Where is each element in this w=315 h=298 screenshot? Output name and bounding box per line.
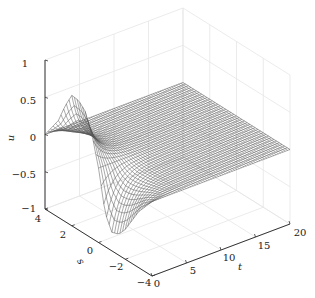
t-tick-label: 15 <box>258 240 271 251</box>
t-tick-label: 10 <box>223 252 236 263</box>
t-tick-label: 5 <box>190 265 196 276</box>
s-tick-label: 4 <box>35 213 41 224</box>
s-tick-label: 2 <box>60 229 66 240</box>
z-axis-label: u <box>5 135 16 141</box>
z-tick-label: −0.5 <box>12 169 36 180</box>
t-tick-label: 20 <box>294 227 307 238</box>
t-axis-label: t <box>238 261 243 272</box>
s-tick-label: −4 <box>137 277 152 288</box>
z-tick-label: −1 <box>21 203 36 214</box>
t-tick-label: 0 <box>154 278 160 289</box>
s-tick-label: 0 <box>87 245 93 256</box>
s-tick-label: −2 <box>109 261 124 272</box>
z-tick-label: 0 <box>30 132 36 143</box>
z-tick-label: 1 <box>22 58 28 69</box>
z-tick-label: 0.5 <box>20 95 36 106</box>
surface-plot: 1 0.5 0 −0.5 −1 u 4 2 0 −2 −4 s 0 5 10 1… <box>0 0 315 298</box>
s-axis-label: s <box>75 256 87 266</box>
